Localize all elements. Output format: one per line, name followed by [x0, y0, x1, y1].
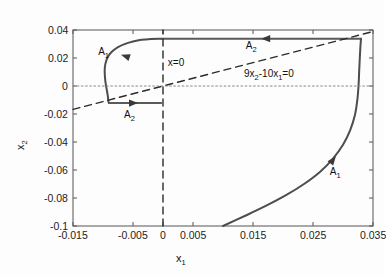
annotation-A1-upper-left: A1 — [98, 46, 109, 60]
arrow-A2-lower-icon — [129, 99, 138, 106]
y-tick-label-2: 0 — [62, 80, 68, 92]
y-tick-label-6: -0.08 — [44, 192, 68, 204]
annotation-A2-upper: A2 — [246, 40, 257, 54]
y-tick-label-1: 0.02 — [48, 52, 68, 64]
y-tick-label-7: -0.1 — [50, 220, 68, 232]
x-tick-label-3: 0.005 — [180, 229, 206, 241]
annotation-switching-eq: 9x2-10x1=0 — [244, 68, 294, 82]
x-tick-label-1: -0.005 — [118, 229, 148, 241]
y-tick-label-4: -0.04 — [44, 136, 68, 148]
y-tick-label-0: 0.04 — [48, 24, 68, 36]
y-axis-title: x2 — [14, 140, 29, 150]
arrow-A2-upper-icon — [261, 35, 270, 42]
annotation-A1-lower-right: A1 — [330, 166, 341, 180]
x-axis-title: x1 — [176, 252, 186, 267]
annotation-x-equals-zero: x=0 — [168, 57, 184, 68]
x-axis-title-sub: 1 — [182, 258, 186, 267]
y-tick-label-5: -0.06 — [44, 164, 68, 176]
y-tick-label-3: -0.02 — [44, 108, 68, 120]
plot-frame — [73, 30, 373, 226]
arrow-A1-upper-left-icon — [120, 51, 131, 61]
series-switching-line-9x2-10x1 — [73, 32, 373, 110]
y-axis-title-sub: 2 — [20, 140, 29, 144]
x-tick-label-4: 0.015 — [240, 229, 266, 241]
y-axis-title-main: x — [14, 145, 26, 151]
annotation-A2-lower: A2 — [124, 109, 135, 123]
x-tick-label-2: 0 — [160, 229, 166, 241]
x-tick-label-6: 0.035 — [360, 229, 386, 241]
x-tick-label-5: 0.025 — [300, 229, 326, 241]
